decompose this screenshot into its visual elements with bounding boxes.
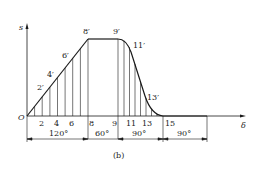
labels: s δ O 2′ 4′ 6′ 8′ 9′ 11′ 13′ 2 4 6 8 9 1… — [18, 23, 246, 160]
delta-axis-label: δ — [241, 121, 246, 130]
tick-label-8: 8 — [89, 119, 94, 128]
point-label-11: 11′ — [133, 41, 145, 50]
s-axis-label: s — [19, 23, 23, 32]
tick-label-11: 11 — [126, 119, 136, 128]
point-label-9: 9′ — [113, 27, 120, 36]
origin-label: O — [18, 113, 25, 122]
segment-label-dwell-high: 60° — [95, 129, 109, 138]
tick-label-6: 6 — [69, 119, 74, 128]
point-label-8: 8′ — [83, 27, 90, 36]
tick-label-4: 4 — [54, 119, 59, 128]
tick-label-15: 15 — [165, 119, 175, 128]
segment-label-return: 90° — [132, 129, 146, 138]
figure-caption: (b) — [113, 151, 124, 160]
point-label-2: 2′ — [37, 83, 44, 92]
segment-label-rise: 120° — [49, 129, 68, 138]
segment-label-dwell-low: 90° — [177, 129, 191, 138]
point-label-13: 13′ — [147, 93, 159, 102]
dimension-lines — [27, 138, 207, 140]
tick-label-2: 2 — [39, 119, 44, 128]
displacement-curve — [27, 39, 207, 116]
delta-axis-arrow-icon — [240, 115, 246, 118]
axes — [26, 23, 247, 118]
tick-label-9: 9 — [112, 119, 117, 128]
displacement-diagram: s δ O 2′ 4′ 6′ 8′ 9′ 11′ 13′ 2 4 6 8 9 1… — [0, 0, 261, 173]
s-axis-arrow-icon — [26, 23, 29, 29]
tick-label-13: 13 — [142, 119, 152, 128]
point-label-6: 6′ — [62, 51, 69, 60]
point-label-4: 4′ — [47, 70, 54, 79]
